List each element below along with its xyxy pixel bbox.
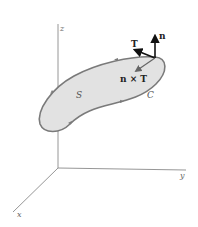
y-axis-label: y: [179, 171, 185, 180]
z-axis-label: z: [59, 24, 65, 33]
stokes-diagram: z y x S C n T n × T: [0, 0, 198, 227]
curve-label: C: [147, 90, 154, 100]
cross-label: n × T: [120, 74, 147, 84]
surface-label: S: [76, 90, 82, 100]
x-axis-label: x: [17, 210, 22, 219]
x-axis: [13, 168, 58, 212]
y-axis: [58, 168, 186, 170]
tangent-label: T: [131, 39, 138, 49]
normal-label: n: [159, 31, 166, 41]
